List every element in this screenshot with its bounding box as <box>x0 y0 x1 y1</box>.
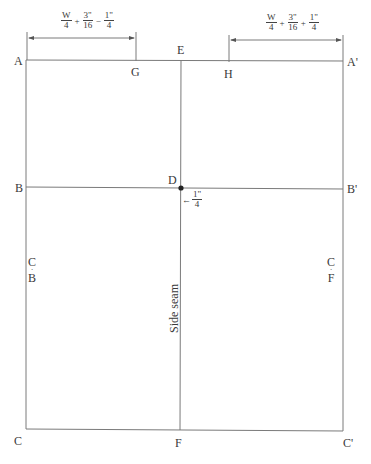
pattern-draft-lines <box>0 0 371 464</box>
point-c-label: C <box>14 435 22 447</box>
side-seam-line <box>180 60 181 430</box>
top-edge-line <box>26 60 343 61</box>
d-offset-frac: 1"4 <box>192 190 202 209</box>
left-dimension-formula: W4 + 3"16 − 1"4 <box>61 11 114 30</box>
point-f-label: F <box>175 437 182 449</box>
bottom-edge-line <box>26 429 343 431</box>
point-d-label: D <box>168 174 177 186</box>
left-grain-mark: C · B <box>28 257 36 283</box>
point-h-label: H <box>224 68 233 80</box>
point-a-prime-label: A' <box>347 56 358 68</box>
left-dim-arrow-left <box>28 36 34 40</box>
right-frac-w4: W4 <box>266 13 277 32</box>
d-offset-note: ← 1"4 <box>182 190 202 209</box>
left-frac-3-16: 3"16 <box>83 11 93 30</box>
right-dim-arrow-left <box>230 38 236 42</box>
right-grain-mark: C · F <box>327 257 335 283</box>
right-dim-arrow-right <box>336 38 342 42</box>
point-e-label: E <box>177 44 184 56</box>
right-frac-3-16: 3"16 <box>288 13 298 32</box>
left-frac-1-4: 1"4 <box>104 11 114 30</box>
arrow-left-icon: ← <box>182 195 191 205</box>
point-a-label: A <box>14 55 23 67</box>
left-frac-w4: W4 <box>61 11 72 30</box>
right-dimension-formula: W4 + 3"16 + 1"4 <box>266 13 319 32</box>
right-frac-1-4: 1"4 <box>309 13 319 32</box>
point-b-label: B <box>15 182 23 194</box>
point-g-label: G <box>131 66 140 78</box>
point-b-prime-label: B' <box>347 183 357 195</box>
left-dim-arrow-right <box>129 36 135 40</box>
bust-line <box>26 187 343 189</box>
side-seam-label: Side seam <box>167 284 182 333</box>
point-c-prime-label: C' <box>343 437 353 449</box>
